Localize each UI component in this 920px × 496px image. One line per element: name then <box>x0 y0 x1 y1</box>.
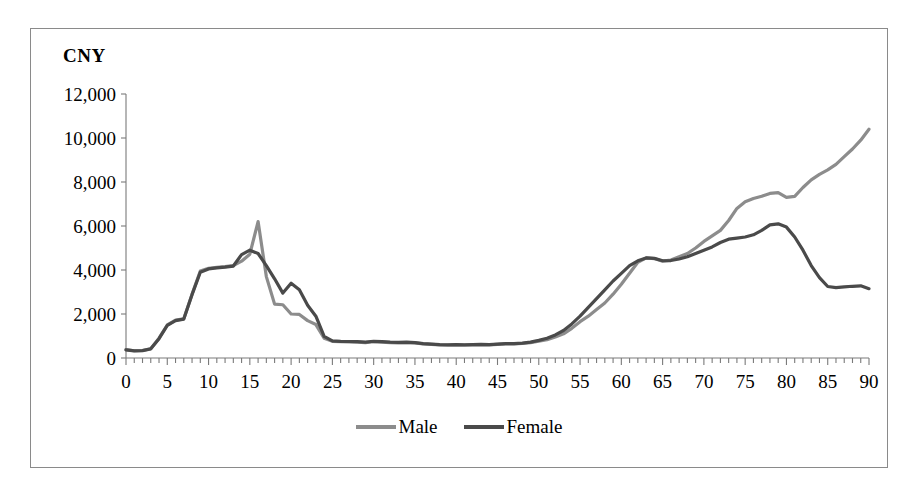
x-axis-tick-label: 55 <box>571 371 590 392</box>
y-axis-tick-label: 6,000 <box>73 216 116 237</box>
chart-legend: MaleFemale <box>31 417 887 436</box>
x-axis-tick-label: 40 <box>447 371 466 392</box>
x-axis-tick-label: 80 <box>777 371 796 392</box>
y-axis-tick-label: 12,000 <box>64 84 116 105</box>
y-axis-tick-label: 2,000 <box>73 304 116 325</box>
x-axis-tick-label: 15 <box>240 371 259 392</box>
x-axis-tick-label: 50 <box>529 371 548 392</box>
chart-series <box>126 129 869 351</box>
x-axis-tick-label: 25 <box>323 371 342 392</box>
chart-frame: CNY 02,0004,0006,0008,00010,00012,000 05… <box>30 28 888 468</box>
x-axis-tick-label: 75 <box>736 371 755 392</box>
x-axis-tick-label: 0 <box>121 371 131 392</box>
chart-axes <box>121 94 869 365</box>
line-chart-plot: 02,0004,0006,0008,00010,00012,000 051015… <box>31 29 889 469</box>
y-axis-tick-label: 10,000 <box>64 128 116 149</box>
x-axis-tick-label: 45 <box>488 371 507 392</box>
y-axis-tick-labels: 02,0004,0006,0008,00010,00012,000 <box>64 84 116 369</box>
x-axis-tick-label: 70 <box>694 371 713 392</box>
series-line-female <box>126 224 869 351</box>
x-axis-tick-label: 10 <box>199 371 218 392</box>
x-axis-tick-label: 20 <box>282 371 301 392</box>
x-axis-tick-label: 65 <box>653 371 672 392</box>
x-axis-tick-label: 60 <box>612 371 631 392</box>
legend-swatch-female <box>464 425 504 429</box>
series-line-male <box>126 129 869 351</box>
x-axis-tick-label: 5 <box>163 371 173 392</box>
legend-label: Male <box>399 417 438 436</box>
legend-swatch-male <box>356 425 396 429</box>
legend-item-female[interactable]: Female <box>464 417 563 436</box>
x-axis-tick-label: 35 <box>405 371 424 392</box>
x-axis-tick-labels: 051015202530354045505560657075808590 <box>121 371 878 392</box>
y-axis-tick-label: 8,000 <box>73 172 116 193</box>
legend-item-male[interactable]: Male <box>356 417 438 436</box>
x-axis-tick-label: 90 <box>860 371 879 392</box>
legend-label: Female <box>507 417 563 436</box>
x-axis-tick-label: 85 <box>818 371 837 392</box>
y-axis-tick-label: 0 <box>107 348 117 369</box>
x-axis-tick-label: 30 <box>364 371 383 392</box>
y-axis-tick-label: 4,000 <box>73 260 116 281</box>
